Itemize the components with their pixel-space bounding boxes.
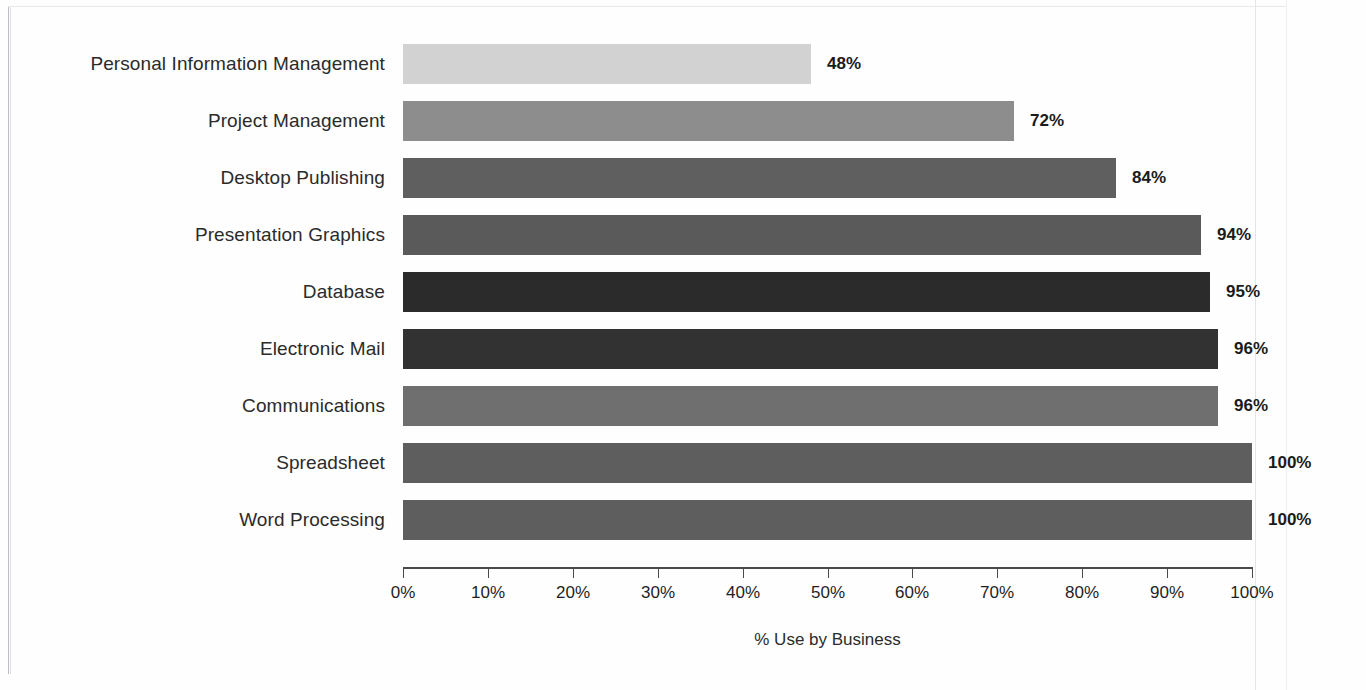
- x-axis-tick-label: 30%: [641, 583, 675, 603]
- bar-value-label: 100%: [1268, 500, 1311, 540]
- bar-row: Database95%: [0, 272, 1366, 329]
- x-axis-tick-label: 10%: [471, 583, 505, 603]
- bar: [403, 272, 1210, 312]
- bar-row: Project Management72%: [0, 101, 1366, 158]
- x-axis-tick: [828, 567, 829, 578]
- chart-page: Personal Information Management48%Projec…: [0, 0, 1366, 690]
- category-label: Presentation Graphics: [20, 215, 385, 255]
- x-axis-tick: [1252, 567, 1253, 578]
- bar-row: Desktop Publishing84%: [0, 158, 1366, 215]
- x-axis-tick-label: 0%: [391, 583, 416, 603]
- x-axis-tick: [1082, 567, 1083, 578]
- bar-value-label: 100%: [1268, 443, 1311, 483]
- x-axis-tick: [912, 567, 913, 578]
- bar-row: Communications96%: [0, 386, 1366, 443]
- x-axis-tick: [488, 567, 489, 578]
- x-axis-tick-label: 20%: [556, 583, 590, 603]
- bar: [403, 500, 1252, 540]
- x-axis-title: % Use by Business: [403, 630, 1252, 650]
- x-axis-tick: [997, 567, 998, 578]
- x-axis-tick-label: 70%: [980, 583, 1014, 603]
- x-axis-tick-label: 40%: [726, 583, 760, 603]
- bar-value-label: 72%: [1030, 101, 1064, 141]
- x-axis-tick: [658, 567, 659, 578]
- x-axis-tick: [403, 567, 404, 578]
- x-axis-tick-label: 60%: [895, 583, 929, 603]
- category-label: Word Processing: [20, 500, 385, 540]
- x-axis-tick-label: 100%: [1230, 583, 1273, 603]
- bar-chart: Personal Information Management48%Projec…: [0, 0, 1366, 690]
- category-label: Personal Information Management: [20, 44, 385, 84]
- bar-row: Word Processing100%: [0, 500, 1366, 557]
- x-axis-tick-label: 90%: [1150, 583, 1184, 603]
- bar-value-label: 94%: [1217, 215, 1251, 255]
- bar: [403, 44, 811, 84]
- x-axis-tick: [743, 567, 744, 578]
- category-label: Desktop Publishing: [20, 158, 385, 198]
- bar-value-label: 96%: [1234, 329, 1268, 369]
- x-axis-tick: [573, 567, 574, 578]
- bar-value-label: 95%: [1226, 272, 1260, 312]
- bar: [403, 215, 1201, 255]
- bar: [403, 101, 1014, 141]
- x-axis-tick-label: 50%: [811, 583, 845, 603]
- bar: [403, 386, 1218, 426]
- bar: [403, 443, 1252, 483]
- bar-row: Electronic Mail96%: [0, 329, 1366, 386]
- bar-row: Personal Information Management48%: [0, 44, 1366, 101]
- bar-row: Presentation Graphics94%: [0, 215, 1366, 272]
- bar: [403, 158, 1116, 198]
- bar-value-label: 48%: [827, 44, 861, 84]
- category-label: Communications: [20, 386, 385, 426]
- category-label: Spreadsheet: [20, 443, 385, 483]
- bar-value-label: 84%: [1132, 158, 1166, 198]
- category-label: Electronic Mail: [20, 329, 385, 369]
- category-label: Project Management: [20, 101, 385, 141]
- bar: [403, 329, 1218, 369]
- category-label: Database: [20, 272, 385, 312]
- x-axis-tick-label: 80%: [1065, 583, 1099, 603]
- bar-value-label: 96%: [1234, 386, 1268, 426]
- x-axis: 0%10%20%30%40%50%60%70%80%90%100%: [403, 567, 1252, 568]
- bar-row: Spreadsheet100%: [0, 443, 1366, 500]
- x-axis-tick: [1167, 567, 1168, 578]
